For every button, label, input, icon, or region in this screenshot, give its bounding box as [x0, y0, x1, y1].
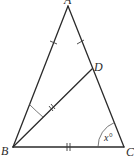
label-b: B — [1, 144, 9, 158]
label-c: C — [126, 145, 134, 159]
angle-label-x: x° — [103, 132, 112, 143]
angle-arc-b — [30, 105, 44, 118]
segment-ab — [13, 6, 68, 147]
triangle-diagram: A D B C x° — [0, 0, 134, 161]
label-a: A — [63, 0, 72, 7]
segment-ac — [68, 6, 124, 147]
label-d: D — [93, 60, 103, 74]
segment-bd — [13, 69, 92, 147]
